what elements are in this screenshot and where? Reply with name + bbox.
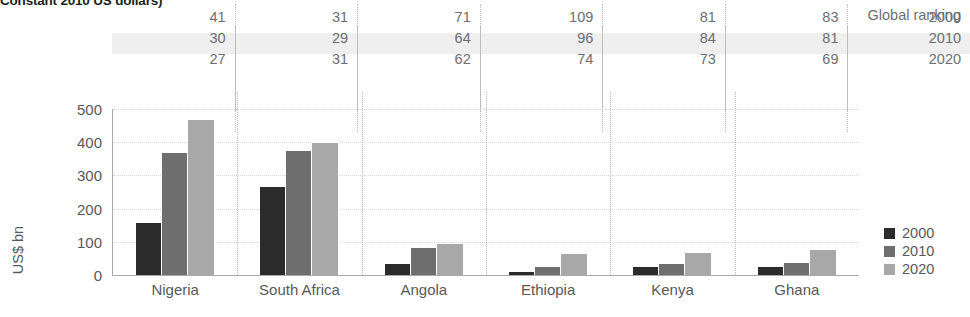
bar-2020[interactable] [187,119,215,275]
ranking-row: 41317110981832000 [112,7,970,28]
bar-2010[interactable] [410,247,438,275]
group-separator [237,92,238,275]
ranking-cell: 30 [112,28,235,49]
ranking-cell: 62 [357,49,480,70]
group-separator [610,92,611,275]
bar-group [237,109,361,275]
ranking-row: 3029649684812010 [112,28,970,49]
bar-2000[interactable] [135,222,163,275]
ranking-year-label: 2000 [847,7,970,28]
legend-label: 2020 [902,262,934,276]
legend-swatch-icon [884,228,895,239]
y-axis-tick-label: 200 [77,202,102,217]
y-axis-title: US$ bn [10,226,26,274]
bar-group [113,109,237,275]
ranking-year-label: 2010 [847,28,970,49]
chart-legend: 200020102020 [884,225,934,279]
global-ranking-table: Global ranking 4131711098183200030296496… [112,4,970,90]
bar-group [610,109,734,275]
group-separator [486,92,487,275]
bar-2020[interactable] [809,249,837,275]
bar-2020[interactable] [436,243,464,275]
bar-2020[interactable] [684,252,712,275]
ranking-cell: 69 [725,49,848,70]
legend-item[interactable]: 2010 [884,243,934,259]
x-axis-category-label: Nigeria [113,281,237,298]
y-axis-tick-label: 300 [77,168,102,183]
ranking-cell: 73 [602,49,725,70]
bar-2000[interactable] [508,271,536,275]
ranking-cell: 96 [480,28,603,49]
bar-2000[interactable] [384,263,412,275]
legend-label: 2000 [902,226,934,240]
bar-2010[interactable] [285,150,313,275]
ranking-cell: 41 [112,7,235,28]
y-axis-ticks: 0100200300400500 [52,92,110,282]
ranking-cell: 71 [357,7,480,28]
ranking-cell: 64 [357,28,480,49]
ranking-cell: 81 [602,7,725,28]
ranking-cell: 31 [235,7,358,28]
ranking-cell: 84 [602,28,725,49]
legend-swatch-icon [884,264,895,275]
y-axis-tick-label: 100 [77,235,102,250]
bar-2020[interactable] [311,142,339,275]
legend-swatch-icon [884,246,895,257]
bar-2000[interactable] [259,186,287,275]
ranking-cell: 83 [725,7,848,28]
ranking-cell: 74 [480,49,603,70]
bar-group [486,109,610,275]
ranking-cell: 31 [235,49,358,70]
y-axis-tick-label: 0 [94,268,102,283]
ranking-year-label: 2020 [847,49,970,70]
x-axis-category-label: Ghana [735,281,859,298]
ranking-row: 2731627473692020 [112,49,970,70]
y-axis-tick-label: 500 [77,102,102,117]
bar-group [735,109,859,275]
bar-2000[interactable] [632,266,660,275]
ranking-cell: 29 [235,28,358,49]
x-axis-category-label: Angola [362,281,486,298]
legend-item[interactable]: 2020 [884,261,934,277]
chart-plot-wrapper: US$ bn 0100200300400500 NigeriaSouth Afr… [0,92,970,317]
x-axis-category-label: South Africa [237,281,361,298]
x-axis-category-label: Kenya [610,281,734,298]
bar-2010[interactable] [783,262,811,275]
legend-label: 2010 [902,244,934,258]
ranking-cell: 27 [112,49,235,70]
bar-2020[interactable] [560,253,588,275]
y-axis-tick-label: 400 [77,135,102,150]
ranking-cell: 109 [480,7,603,28]
bar-2010[interactable] [658,263,686,275]
legend-item[interactable]: 2000 [884,225,934,241]
group-separator [362,92,363,275]
bar-2000[interactable] [757,266,785,275]
plot-area: NigeriaSouth AfricaAngolaEthiopiaKenyaGh… [112,109,859,276]
ranking-cell: 81 [725,28,848,49]
bar-2010[interactable] [534,266,562,275]
x-axis-category-label: Ethiopia [486,281,610,298]
group-separator [735,92,736,275]
bar-group [362,109,486,275]
bar-2010[interactable] [161,152,189,275]
